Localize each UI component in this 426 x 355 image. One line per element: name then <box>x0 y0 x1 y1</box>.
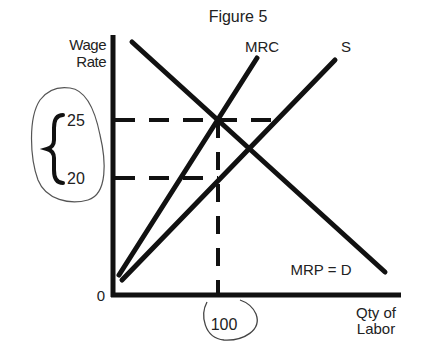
mrp-demand-label: MRP = D <box>291 261 352 278</box>
supply-label: S <box>341 38 351 55</box>
mrc-label: MRC <box>245 38 279 55</box>
figure-5-chart: Figure 5 Wage Rate MRC S MRP = D 0 25 20… <box>0 0 426 355</box>
x-axis-label-line1: Qty of <box>356 304 397 321</box>
y-tick-25: 25 <box>67 112 85 129</box>
x-axis-label-line2: Labor <box>357 320 395 337</box>
y-tick-20: 20 <box>67 170 85 187</box>
curly-bracket-icon <box>47 115 63 183</box>
origin-label: 0 <box>97 287 105 304</box>
y-axis-label-line2: Rate <box>76 53 106 70</box>
chart-title: Figure 5 <box>209 8 268 25</box>
mrp-demand-curve <box>132 42 385 272</box>
y-axis-label-line1: Wage <box>69 36 106 53</box>
supply-curve <box>122 60 335 280</box>
x-tick-100: 100 <box>211 316 238 333</box>
